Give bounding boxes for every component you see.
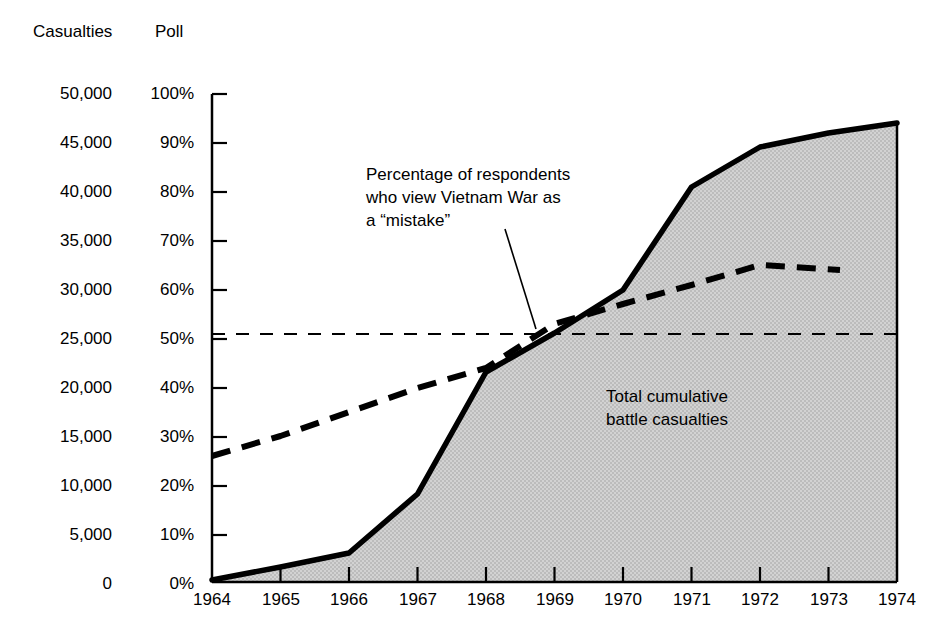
annotation-casualties-area: Total cumulative battle casualties: [606, 385, 728, 431]
chart-container: Casualties Poll 50,000 45,000 40,000 35,…: [0, 0, 938, 628]
annotation-leader-line: [505, 229, 536, 329]
annotation-poll-series: Percentage of respondents who view Vietn…: [366, 163, 570, 232]
plot-area: [0, 0, 938, 628]
y-axis-ticks: [212, 94, 227, 535]
